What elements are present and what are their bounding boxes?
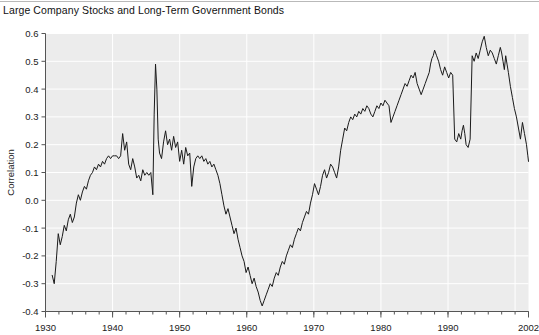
y-axis-tick-label: -0.4: [22, 306, 38, 317]
x-axis-tick-label: 1950: [169, 322, 190, 333]
y-axis-tick-label: 0.0: [25, 195, 38, 206]
x-axis-tick-labels-group: 19301940195019601970198019902002: [35, 322, 539, 333]
y-axis-label-group: Correlation: [5, 149, 16, 195]
y-axis-tick-label: -0.3: [22, 278, 38, 289]
x-axis-tick-label: 1960: [236, 322, 257, 333]
y-axis-tick-label: 0.6: [25, 28, 38, 39]
x-axis-ticks-group: [46, 312, 529, 318]
y-axis-title: Correlation: [5, 149, 16, 195]
y-axis-tick-label: 0.1: [25, 167, 38, 178]
y-axis-tick-labels-group: -0.4-0.3-0.2-0.10.00.10.20.30.40.50.6: [22, 28, 38, 317]
chart-plot-wrapper: Correlation -0.4-0.3-0.2-0.10.00.10.20.3…: [0, 0, 539, 335]
y-axis-tick-label: 0.3: [25, 111, 38, 122]
y-axis-tick-label: -0.1: [22, 223, 38, 234]
x-axis-tick-label: 2002: [518, 322, 539, 333]
x-axis-tick-label: 1980: [370, 322, 391, 333]
x-axis-tick-label: 1930: [35, 322, 56, 333]
x-axis-tick-label: 1970: [303, 322, 324, 333]
y-axis-tick-label: 0.5: [25, 56, 38, 67]
x-axis-tick-label: 1940: [102, 322, 123, 333]
y-axis-tick-label: -0.2: [22, 250, 38, 261]
figure-container: Large Company Stocks and Long-Term Gover…: [0, 0, 539, 335]
y-axis-tick-label: 0.2: [25, 139, 38, 150]
x-axis-tick-label: 1990: [437, 322, 458, 333]
correlation-line-chart: Correlation -0.4-0.3-0.2-0.10.00.10.20.3…: [0, 0, 539, 335]
y-axis-tick-label: 0.4: [25, 84, 38, 95]
y-axis-ticks-group: [42, 34, 46, 312]
